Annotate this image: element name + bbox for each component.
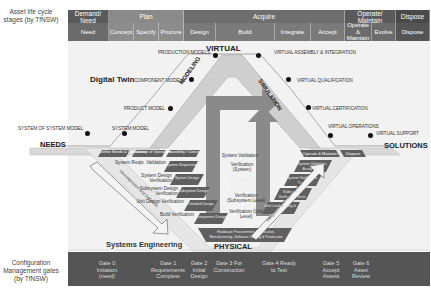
node-dot — [122, 131, 127, 136]
node-system-of-system-model: SYSTEM OF SYSTEM MODEL — [18, 126, 83, 131]
node-dot — [306, 105, 311, 110]
node-virtual-qualification: VIRTUAL QUALIFICATION — [297, 78, 353, 83]
step-system-validation: System Validation — [220, 153, 260, 158]
box-system-design: System Design — [172, 176, 202, 181]
gate-4: Gate 4 Ready to Test — [262, 260, 296, 273]
node-dot — [213, 53, 218, 58]
gate-3: Gate 3 For Construction — [211, 260, 247, 273]
node-dot — [168, 106, 173, 111]
box-system-requirements: System Requirements — [166, 163, 196, 168]
virtual-label: VIRTUAL — [206, 44, 241, 53]
node-virtual-assembly-integration: VIRTUAL ASSEMBLY & INTEGRATION — [274, 50, 356, 55]
node-dot — [368, 133, 373, 138]
box-feasibility-concept: Feasibility / Concept — [168, 150, 198, 155]
physical-label: PHYSICAL — [214, 242, 252, 251]
box-hardware-software-production: Hardware Procurement, Fabrication, Manuf… — [208, 230, 284, 240]
node-system-model: SYSTEM MODEL — [112, 126, 149, 131]
config-gates-bar: Gate 0 Initiation (need) Gate 1 Requirem… — [68, 252, 430, 286]
step-verification-subsystem-interfaces: Verification (Subsystem Interfaces) — [220, 178, 264, 193]
systems-engineering-title: Systems Engineering — [106, 240, 182, 249]
needs-label: NEEDS — [40, 140, 66, 149]
node-dot — [328, 133, 333, 138]
node-dot — [189, 77, 194, 82]
box-detailed-design: Detailed Design — [186, 202, 216, 207]
step-verification-system: Verification (System) — [224, 162, 260, 172]
node-dot — [286, 77, 291, 82]
box-system-validation-acceptance: System Validation Acceptance — [296, 162, 328, 172]
box-component-design: Component Design — [196, 215, 226, 220]
node-product-model: PRODUCT MODEL — [124, 106, 165, 111]
node-virtual-operations: VIRTUAL OPERATIONS — [328, 124, 379, 129]
gate-0: Gate 0 Initiation (need) — [90, 260, 124, 280]
step-build-verification: Build Verification — [140, 212, 194, 217]
node-dot — [256, 53, 261, 58]
gate-5: Gate 5 Accept Assets — [316, 260, 346, 280]
gate-6: Gate 6 Asset Review — [346, 260, 376, 280]
gate-2: Gate 2 Initial Design — [186, 260, 212, 280]
node-virtual-support: VIRTUAL SUPPORT — [376, 131, 419, 136]
node-component-models: COMPONENT MODELS — [134, 78, 185, 83]
step-subsystem-design-verification: Subsystem Design Verification — [124, 186, 178, 196]
step-verification-subsystem-level: Verification (Subsystem Level) — [226, 193, 266, 203]
box-concept-of-operations: Concept of Operations — [134, 150, 164, 155]
box-subsystem-design: Subsystem Design — [178, 189, 208, 194]
node-dot — [85, 131, 90, 136]
solutions-label: SOLUTIONS — [384, 141, 428, 150]
digital-twin-title: Digital Twin — [90, 75, 134, 84]
node-production-models: PRODUCTION MODELS — [158, 50, 210, 55]
step-verification-unit-level: Verification (Unit Level) — [228, 209, 264, 219]
node-virtual-certification: VIRTUAL CERTIFICATION — [312, 106, 368, 111]
box-define-needs: Define Needs & Operations — [100, 150, 128, 155]
gate-1: Gate 1 Requirements Complete — [148, 260, 188, 280]
step-system-reqts-validation: System Reqts. Validation — [112, 160, 166, 165]
box-dispose: Dispose — [342, 151, 364, 156]
box-operate-maintain: Operate & Maintain — [302, 151, 338, 156]
